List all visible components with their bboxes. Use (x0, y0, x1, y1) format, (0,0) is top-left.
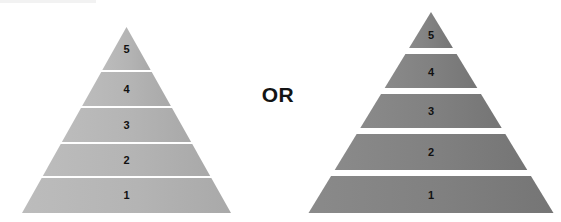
pyramid-tier-shape[interactable] (102, 27, 150, 70)
pyramid-tier-shape[interactable] (62, 108, 191, 142)
diagram-canvas: 54321 54321 OR (0, 0, 561, 222)
pyramid-tier[interactable]: 2 (335, 134, 528, 170)
pyramid-tier-shape[interactable] (335, 134, 528, 170)
pyramid-tier[interactable]: 4 (82, 72, 171, 106)
pyramid-tier-shape[interactable] (309, 176, 554, 213)
pyramid-tier-shape[interactable] (409, 12, 453, 48)
pyramid-tier[interactable]: 5 (102, 27, 150, 70)
pyramid-tier-shape[interactable] (43, 144, 210, 176)
pyramid-tier[interactable]: 3 (62, 108, 191, 142)
pyramid-tier[interactable]: 1 (309, 176, 554, 213)
top-edge-artifact (0, 0, 96, 3)
pyramid-tier-shape[interactable] (360, 94, 501, 128)
pyramid-tier-shape[interactable] (385, 54, 478, 88)
pyramid-tier[interactable]: 3 (360, 94, 501, 128)
pyramid-tier-shape[interactable] (82, 72, 171, 106)
or-connector-label: OR (248, 79, 308, 109)
pyramid-tier[interactable]: 1 (22, 178, 231, 213)
pyramid-tier[interactable]: 5 (409, 12, 453, 48)
pyramid-tier[interactable]: 2 (43, 144, 210, 176)
pyramid-tier-shape[interactable] (22, 178, 231, 213)
pyramid-tier[interactable]: 4 (385, 54, 478, 88)
